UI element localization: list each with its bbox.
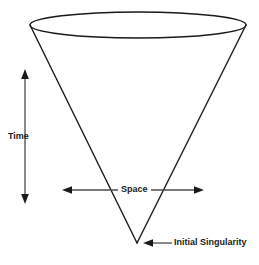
light-cone-diagram: Time Space Initial Singularity (0, 0, 259, 265)
singularity-pointer-icon (143, 239, 172, 247)
cone-right-edge (137, 25, 246, 243)
cone-graphic (0, 0, 259, 265)
initial-singularity-label: Initial Singularity (174, 238, 247, 247)
cone-left-edge (30, 25, 137, 243)
time-axis-label: Time (8, 132, 29, 141)
cone-top-ellipse-icon (30, 12, 246, 38)
space-axis-arrowhead-right (194, 186, 204, 194)
time-axis-arrowhead-up (21, 69, 29, 79)
time-axis-arrowhead-down (21, 194, 29, 204)
singularity-pointer-arrowhead (143, 239, 153, 247)
space-axis-arrowhead-left (62, 186, 72, 194)
space-axis-label: Space (118, 185, 151, 194)
cone-outline (30, 25, 246, 243)
